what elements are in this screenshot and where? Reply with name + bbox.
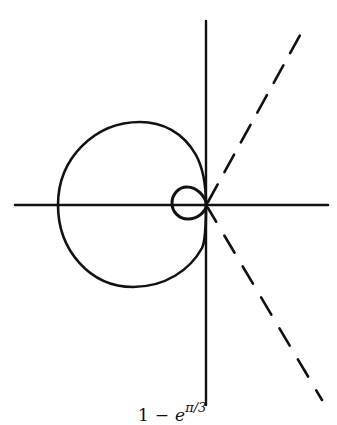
upper-dashed-ray — [208, 28, 304, 202]
nyquist-diagram — [0, 0, 337, 425]
caption-exponent: π/3 — [185, 400, 206, 415]
small-loop-curve — [172, 187, 207, 219]
caption-operator: − — [155, 405, 169, 425]
lower-dashed-ray — [208, 208, 322, 400]
caption-term: e — [175, 405, 185, 425]
caption-base: 1 — [138, 405, 149, 425]
figure-caption: 1−eπ/3 — [138, 400, 206, 425]
